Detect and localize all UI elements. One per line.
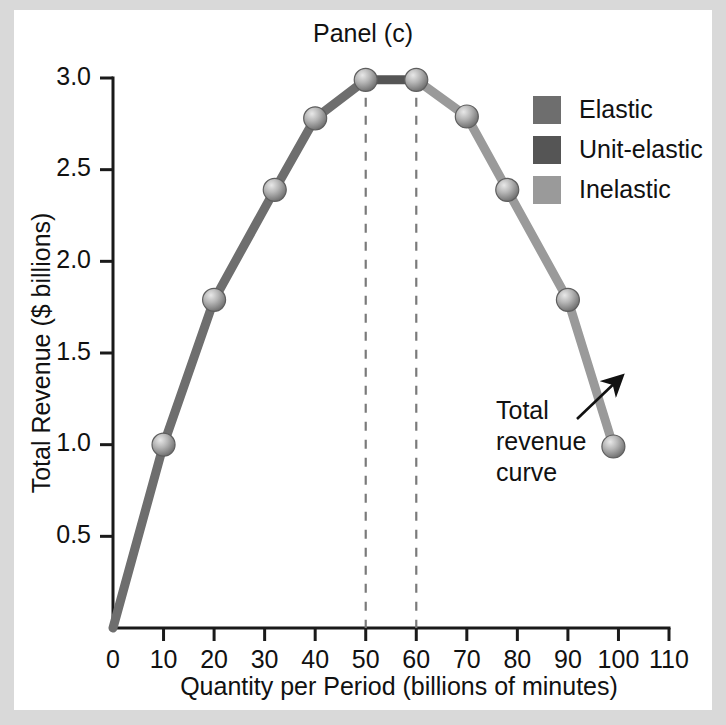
x-tick-label: 80 bbox=[503, 645, 531, 673]
data-point-marker bbox=[152, 433, 175, 456]
total-revenue-chart: Panel (c) 0.51.01.52.02.53.0010203040506… bbox=[14, 10, 712, 710]
data-point-marker bbox=[304, 107, 327, 130]
x-tick-label: 0 bbox=[106, 645, 120, 673]
y-tick-label: 3.0 bbox=[56, 62, 91, 90]
y-tick-label: 2.5 bbox=[56, 153, 91, 181]
y-tick-label: 1.0 bbox=[56, 428, 91, 456]
curve-annotation: Total revenue curve bbox=[496, 377, 621, 486]
figure-panel: Panel (c) 0.51.01.52.02.53.0010203040506… bbox=[14, 10, 712, 710]
y-tick-label: 0.5 bbox=[56, 520, 91, 548]
annotation-line-1: Total bbox=[496, 396, 549, 424]
x-tick-label: 110 bbox=[649, 645, 689, 673]
page-title: Panel (c) bbox=[313, 19, 413, 47]
x-tick-label: 90 bbox=[554, 645, 582, 673]
x-axis-title: Quantity per Period (billions of minutes… bbox=[180, 672, 618, 700]
legend-label-elastic: Elastic bbox=[579, 95, 653, 123]
legend-swatch-unit-elastic bbox=[533, 136, 561, 164]
legend-label-unit-elastic: Unit-elastic bbox=[579, 135, 703, 163]
y-tick-label: 1.5 bbox=[56, 337, 91, 365]
x-tick-label: 50 bbox=[352, 645, 380, 673]
data-point-marker bbox=[496, 178, 519, 201]
data-point-markers bbox=[152, 68, 625, 458]
data-point-marker bbox=[556, 288, 579, 311]
legend-swatch-inelastic bbox=[533, 176, 561, 204]
guide-lines bbox=[366, 80, 417, 628]
data-point-marker bbox=[405, 68, 428, 91]
x-tick-label: 70 bbox=[453, 645, 481, 673]
legend: ElasticUnit-elasticInelastic bbox=[533, 95, 703, 204]
data-point-marker bbox=[602, 435, 625, 458]
curve-segment-elastic bbox=[113, 80, 366, 628]
annotation-line-3: curve bbox=[496, 458, 557, 486]
data-point-marker bbox=[455, 105, 478, 128]
annotation-line-2: revenue bbox=[496, 427, 586, 455]
data-point-marker bbox=[203, 288, 226, 311]
plot-area: Panel (c) 0.51.01.52.02.53.0010203040506… bbox=[14, 10, 712, 710]
x-tick-label: 30 bbox=[251, 645, 279, 673]
data-point-marker bbox=[263, 178, 286, 201]
x-tick-label: 40 bbox=[301, 645, 329, 673]
data-point-marker bbox=[354, 68, 377, 91]
y-tick-label: 2.0 bbox=[56, 245, 91, 273]
x-tick-label: 20 bbox=[200, 645, 228, 673]
x-tick-label: 60 bbox=[402, 645, 430, 673]
legend-swatch-elastic bbox=[533, 96, 561, 124]
x-tick-label: 10 bbox=[150, 645, 178, 673]
x-tick-label: 100 bbox=[598, 645, 640, 673]
y-axis-title: Total Revenue ($ billions) bbox=[27, 213, 55, 494]
legend-label-inelastic: Inelastic bbox=[579, 175, 671, 203]
